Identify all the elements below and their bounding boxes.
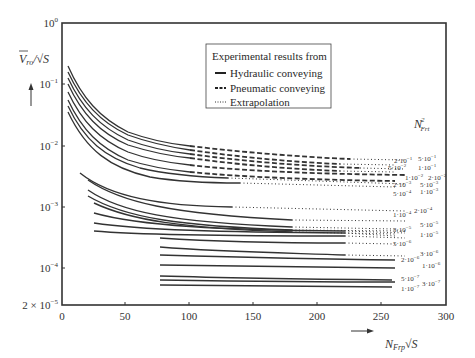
curve-label: 3·10−7 xyxy=(422,279,441,288)
y-tick-2: 10−2 xyxy=(40,139,59,152)
y-tick-5: 2 × 10−5 xyxy=(22,298,58,311)
y-tick-0: 100 xyxy=(44,16,59,29)
svg-text:Vro/√S: Vro/√S xyxy=(19,52,49,67)
svg-text:100: 100 xyxy=(181,310,198,322)
curve-label: 5·10−7 xyxy=(401,274,420,283)
curve-labels-left: 2·10−1 5·10−2 1·10−2 2·10−3 5·10−4 1·10−… xyxy=(388,156,424,293)
parameter-label: N2Frt xyxy=(413,116,431,133)
up-arrow-head-icon xyxy=(29,83,34,90)
curve-label: 2·10−6 xyxy=(401,255,420,264)
curve-label: 2·10−4 xyxy=(414,206,433,215)
y-tick-4: 10−4 xyxy=(40,261,59,274)
legend-title: Experimental results from xyxy=(212,50,327,62)
y-tick-3: 10−3 xyxy=(40,200,59,213)
legend: Experimental results from Hydraulic conv… xyxy=(206,44,331,108)
svg-text:NFrp√S: NFrp√S xyxy=(384,337,418,352)
x-tick-labels: 0 50 100 150 200 250 300 xyxy=(59,310,455,322)
curve-label: 1·10−5 xyxy=(420,230,439,239)
y-tick-1: 10−1 xyxy=(40,77,59,90)
svg-text:200: 200 xyxy=(309,310,326,322)
curve-label: 5·10−5 xyxy=(420,220,439,229)
svg-text:300: 300 xyxy=(438,310,455,322)
curve-label: 5·10−1 xyxy=(418,154,437,163)
svg-text:150: 150 xyxy=(245,310,262,322)
legend-hydraulic: Hydraulic conveying xyxy=(230,67,323,79)
curve-label: 1·10−1 xyxy=(418,163,437,172)
curve-label: 3·10−6 xyxy=(420,249,439,258)
curve-label: 5·10−6 xyxy=(393,239,412,248)
curve-label: 1·10−7 xyxy=(401,284,420,293)
right-arrow-head-icon xyxy=(367,329,374,334)
svg-text:0: 0 xyxy=(59,310,65,322)
chart: 100 10−1 10−2 10−3 10−4 2 × 10−5 0 50 10… xyxy=(0,0,475,358)
curve-label: 1·10−3 xyxy=(420,187,439,196)
curve-label: 1·10−6 xyxy=(422,261,441,270)
legend-pneumatic: Pneumatic conveying xyxy=(230,82,326,94)
legend-extrapolation: Extrapolation xyxy=(230,96,290,108)
curve-label: 3·10−5 xyxy=(393,225,412,234)
curve-label: 2·10−3 xyxy=(393,180,412,189)
curve-label: 1·10−4 xyxy=(393,210,412,219)
svg-text:250: 250 xyxy=(373,310,390,322)
svg-text:50: 50 xyxy=(120,310,132,322)
curve-label: 5·10−2 xyxy=(388,163,407,172)
x-axis-title: NFrp√S xyxy=(351,329,418,353)
curve-label: 5·10−4 xyxy=(393,189,412,198)
